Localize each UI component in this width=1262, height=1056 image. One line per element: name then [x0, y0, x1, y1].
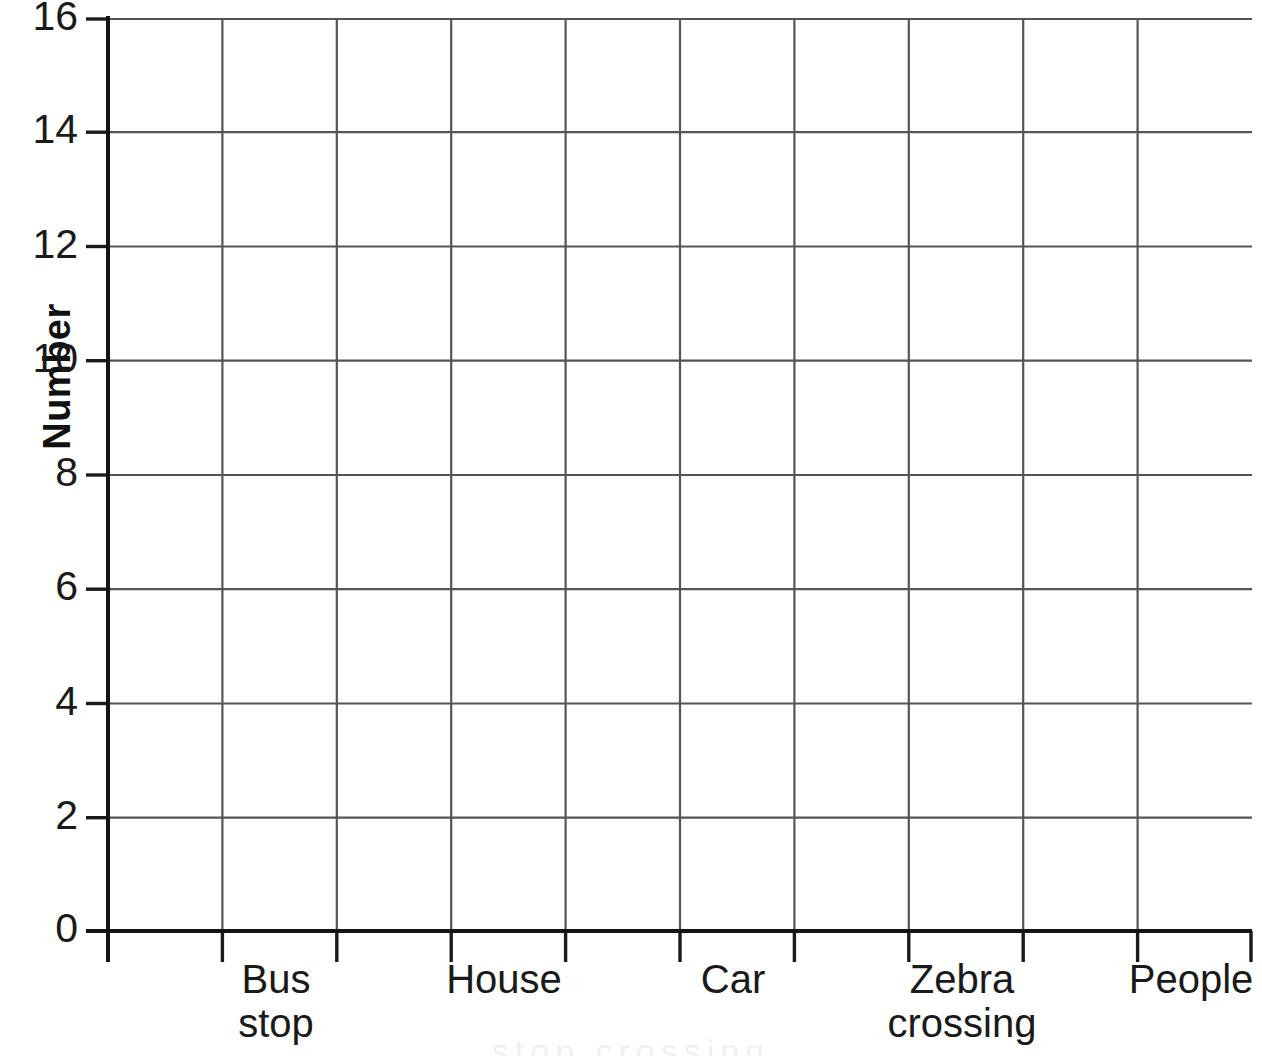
y-tick-label: 2 [55, 795, 78, 836]
y-axis-ticks [86, 19, 108, 931]
x-tick-line: stop [166, 1001, 386, 1045]
x-tick-label-house: House [394, 957, 614, 1001]
x-tick-line: People [1081, 957, 1262, 1001]
grid-lines [108, 18, 1252, 932]
x-tick-line: House [394, 957, 614, 1001]
bar-chart-figure: Number [0, 0, 1262, 1056]
y-tick-label: 10 [32, 338, 78, 379]
y-tick-label: 4 [55, 681, 78, 722]
axis-spines [86, 16, 1252, 962]
x-tick-line: Bus [166, 957, 386, 1001]
y-tick-label: 0 [55, 908, 78, 949]
y-tick-label: 8 [55, 452, 78, 493]
x-tick-line: Zebra [852, 957, 1072, 1001]
x-tick-label-zebra-crossing: Zebra crossing [852, 957, 1072, 1045]
y-tick-label: 12 [32, 224, 78, 265]
x-tick-label-people: People [1081, 957, 1262, 1001]
x-tick-line: crossing [852, 1001, 1072, 1045]
x-tick-line: Car [623, 957, 843, 1001]
y-tick-label: 6 [55, 566, 78, 607]
y-tick-label: 14 [32, 109, 78, 150]
plot-area: 16 14 12 10 8 6 4 2 0 [108, 18, 1252, 932]
y-tick-label: 16 [32, 0, 78, 37]
x-tick-label-car: Car [623, 957, 843, 1001]
x-tick-label-bus-stop: Bus stop [166, 957, 386, 1045]
